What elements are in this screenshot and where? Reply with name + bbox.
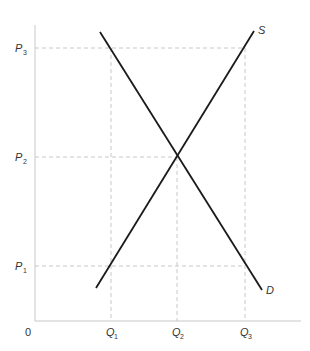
- quantity-tick-subscript: 2: [180, 333, 184, 340]
- price-tick-label: P: [15, 151, 23, 163]
- supply-demand-diagram: P3P2P1Q1Q2Q3SD 0: [0, 0, 310, 351]
- guide-lines: [35, 48, 245, 321]
- price-tick-label: P: [15, 260, 23, 272]
- quantity-tick-subscript: 3: [248, 333, 252, 340]
- labels: P3P2P1Q1Q2Q3SD: [15, 24, 274, 340]
- curves: [96, 31, 262, 290]
- supply-label: S: [258, 24, 266, 36]
- quantity-tick-subscript: 1: [114, 333, 118, 340]
- price-tick-subscript: 1: [23, 267, 27, 274]
- origin-label: 0: [25, 326, 31, 338]
- price-tick-label: P: [15, 42, 23, 54]
- demand-label: D: [266, 284, 274, 296]
- price-tick-subscript: 3: [23, 49, 27, 56]
- price-tick-subscript: 2: [23, 158, 27, 165]
- supply-curve: [96, 31, 254, 288]
- demand-curve: [100, 32, 262, 290]
